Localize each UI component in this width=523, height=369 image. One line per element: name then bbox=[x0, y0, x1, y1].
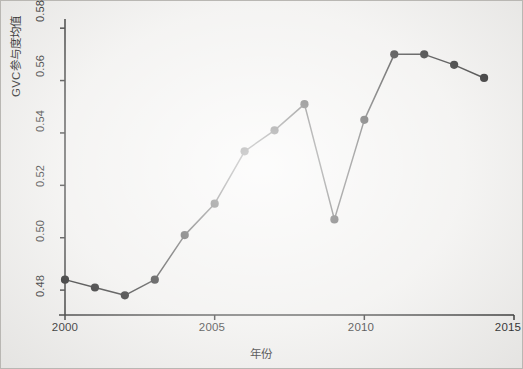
data-point-2007 bbox=[270, 126, 278, 134]
chart-frame: GVC参与度均值 年份 0.48 0.50 0.52 0.54 0.56 0.5… bbox=[0, 0, 523, 369]
data-point-2000 bbox=[61, 276, 69, 284]
data-point-2004 bbox=[181, 231, 189, 239]
x-tick-label-3: 2015 bbox=[485, 321, 523, 333]
data-point-2014 bbox=[480, 74, 488, 82]
y-tick-label-0: 0.48 bbox=[34, 269, 46, 303]
x-tick-label-2: 2010 bbox=[338, 321, 384, 333]
data-point-2013 bbox=[450, 61, 458, 69]
data-point-2006 bbox=[241, 147, 249, 155]
data-point-2009 bbox=[330, 215, 338, 223]
y-axis-title: GVC参与度均值 bbox=[7, 0, 23, 97]
data-point-2001 bbox=[91, 283, 99, 291]
y-tick-label-3: 0.54 bbox=[34, 104, 46, 138]
x-tick-label-0: 2000 bbox=[42, 321, 88, 333]
data-point-2012 bbox=[420, 50, 428, 58]
y-tick-label-4: 0.56 bbox=[34, 49, 46, 83]
data-point-2002 bbox=[121, 291, 129, 299]
data-line-series-0 bbox=[65, 54, 484, 295]
y-tick-label-5: 0.58 bbox=[34, 0, 46, 28]
data-point-markers bbox=[61, 50, 488, 299]
x-tick-label-1: 2005 bbox=[189, 321, 235, 333]
x-axis-title: 年份 bbox=[1, 345, 522, 361]
data-point-2003 bbox=[151, 276, 159, 284]
data-point-2005 bbox=[211, 200, 219, 208]
data-point-2008 bbox=[300, 100, 308, 108]
data-point-2011 bbox=[390, 50, 398, 58]
y-tick-label-2: 0.52 bbox=[34, 159, 46, 193]
data-point-2010 bbox=[360, 116, 368, 124]
y-tick-label-1: 0.50 bbox=[34, 214, 46, 248]
plot-area bbox=[1, 1, 523, 369]
